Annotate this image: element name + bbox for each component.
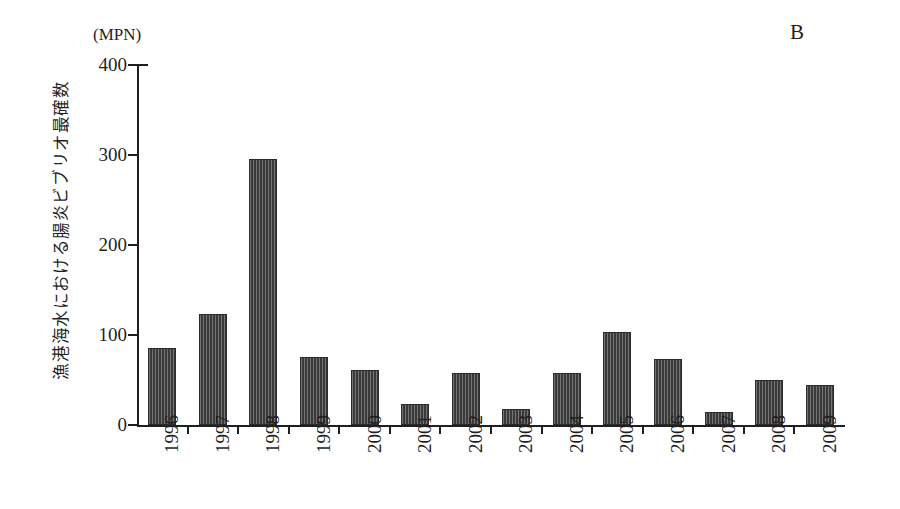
y-axis-tick-label-0: 0 xyxy=(118,415,128,434)
x-axis-label-2008: 2008 xyxy=(756,434,782,504)
x-axis-label-text: 2001 xyxy=(415,415,434,453)
x-axis-label-2009: 2009 xyxy=(807,434,833,504)
x-axis-label-text: 2009 xyxy=(820,415,839,453)
panel-label: B xyxy=(790,22,805,43)
x-axis-label-text: 2006 xyxy=(668,415,687,453)
x-axis-label-2002: 2002 xyxy=(453,434,479,504)
x-axis-label-text: 1996 xyxy=(162,415,181,453)
y-axis-tick-label-400: 400 xyxy=(99,55,128,74)
y-axis-tick-300 xyxy=(128,154,139,156)
x-axis-label-2000: 2000 xyxy=(352,434,378,504)
x-axis-label-1997: 1997 xyxy=(200,434,226,504)
y-axis-tick-0 xyxy=(128,424,139,426)
x-axis-tick-9 xyxy=(591,425,593,434)
x-axis-label-text: 2005 xyxy=(617,415,636,453)
x-axis-label-text: 1998 xyxy=(263,415,282,453)
x-axis-tick-2 xyxy=(237,425,239,434)
y-axis-unit-caption: (MPN) xyxy=(93,26,141,43)
x-axis-tick-4 xyxy=(338,425,340,434)
x-axis-tick-11 xyxy=(692,425,694,434)
y-axis-tick-200 xyxy=(128,244,139,246)
x-axis-label-text: 2008 xyxy=(769,415,788,453)
x-axis-tick-7 xyxy=(490,425,492,434)
y-axis-tick-label-200: 200 xyxy=(99,235,128,254)
plot-area: 0100200300400 xyxy=(137,65,845,425)
x-axis-tick-3 xyxy=(288,425,290,434)
x-axis-label-text: 2007 xyxy=(719,415,738,453)
bar-1996 xyxy=(148,348,176,425)
x-axis-tick-8 xyxy=(541,425,543,434)
bar-1998 xyxy=(249,159,277,425)
y-axis-tick-labels: 0100200300400 xyxy=(17,65,127,425)
bar-2005 xyxy=(603,332,631,425)
y-axis-tick-400 xyxy=(128,64,139,66)
x-axis-label-text: 2004 xyxy=(567,415,586,453)
figure-panel-b: B (MPN) 漁港海水における腸炎ビブリオ最確数 0100200300400 … xyxy=(0,0,900,509)
x-axis-label-2003: 2003 xyxy=(503,434,529,504)
x-axis-label-1999: 1999 xyxy=(301,434,327,504)
x-axis-tick-12 xyxy=(743,425,745,434)
x-axis-tick-13 xyxy=(793,425,795,434)
y-axis-tick-label-100: 100 xyxy=(99,325,128,344)
x-axis-label-text: 2002 xyxy=(466,415,485,453)
x-axis-label-2004: 2004 xyxy=(554,434,580,504)
x-axis-tick-10 xyxy=(642,425,644,434)
x-axis-label-2001: 2001 xyxy=(402,434,428,504)
x-axis-label-2007: 2007 xyxy=(706,434,732,504)
x-axis-label-2006: 2006 xyxy=(655,434,681,504)
x-axis-label-text: 1999 xyxy=(314,415,333,453)
x-axis-label-2005: 2005 xyxy=(604,434,630,504)
x-axis-label-text: 2003 xyxy=(516,415,535,453)
x-axis-label-1996: 1996 xyxy=(149,434,175,504)
y-axis-tick-100 xyxy=(128,334,139,336)
x-axis-label-text: 1997 xyxy=(213,415,232,453)
x-axis-label-1998: 1998 xyxy=(250,434,276,504)
x-axis-tick-5 xyxy=(389,425,391,434)
x-axis-tick-1 xyxy=(187,425,189,434)
x-axis-tick-6 xyxy=(439,425,441,434)
y-axis-tick-label-300: 300 xyxy=(99,145,128,164)
x-axis-label-text: 2000 xyxy=(365,415,384,453)
bar-1997 xyxy=(199,314,227,425)
